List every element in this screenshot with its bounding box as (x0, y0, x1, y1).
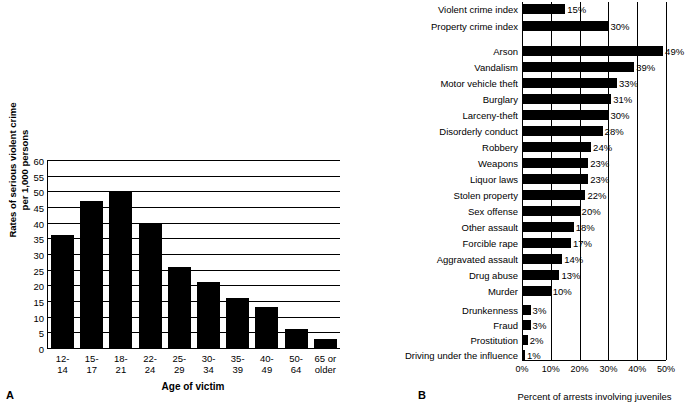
chart-b-bar-driving-under-the-influence (522, 350, 525, 360)
chart-b-label-fraud: Fraud (493, 320, 518, 331)
chart-a-xtick-65-or-older: 65 orolder (308, 353, 342, 375)
chart-b-value-vandalism: 39% (636, 62, 655, 73)
chart-b-xtick-0: 0% (515, 364, 528, 374)
chart-b-value-stolen-property: 22% (587, 190, 606, 201)
chart-b-label-prostitution: Prostitution (470, 335, 518, 346)
chart-a-ytick-20: 20 (33, 281, 44, 292)
chart-b-value-property-crime-index: 30% (610, 21, 629, 32)
chart-b-label-sex-offense: Sex offense (468, 206, 518, 217)
chart-b-bar-disorderly-conduct (522, 126, 603, 136)
chart-a-bar-35-39: 35-39 (226, 298, 249, 348)
chart-a-x-axis-label: Age of victim (47, 381, 339, 392)
chart-a-gridline-60: 60 (48, 160, 340, 161)
chart-b-xtick-30: 30% (599, 364, 617, 374)
chart-a-bar-12-14: 12-14 (51, 235, 74, 348)
chart-b-value-burglary: 31% (613, 94, 632, 105)
chart-b-label-murder: Murder (488, 286, 518, 297)
chart-b-bar-violent-crime-index (522, 4, 565, 14)
chart-b-label-forcible-rape: Forcible rape (463, 238, 518, 249)
chart-b-xtick-10: 10% (542, 364, 560, 374)
chart-a-gridline-0: 0 (48, 348, 340, 349)
chart-b-value-prostitution: 2% (530, 335, 544, 346)
chart-b-label-aggravated-assault: Aggravated assault (437, 254, 518, 265)
panel-a-label: A (6, 389, 14, 401)
chart-b-label-robbery: Robbery (482, 142, 518, 153)
chart-a-bar-50-64: 50-64 (285, 329, 308, 348)
chart-b-xtick-50: 50% (657, 364, 675, 374)
chart-b-value-drug-abuse: 13% (561, 270, 580, 281)
chart-b-label-stolen-property: Stolen property (454, 190, 518, 201)
chart-a-bar-25-29: 25-29 (168, 267, 191, 349)
chart-b-bar-drug-abuse (522, 270, 559, 280)
chart-a-ytick-5: 5 (39, 328, 44, 339)
chart-b-label-weapons: Weapons (478, 158, 518, 169)
chart-a-gridline-55: 55 (48, 176, 340, 177)
chart-b-label-motor-vehicle-theft: Motor vehicle theft (440, 78, 518, 89)
chart-b-label-other-assault: Other assault (462, 222, 519, 233)
chart-b-value-driving-under-the-influence: 1% (527, 350, 541, 361)
chart-a-ytick-35: 35 (33, 234, 44, 245)
chart-b-value-aggravated-assault: 14% (564, 254, 583, 265)
chart-b-bar-sex-offense (522, 206, 580, 216)
chart-b-value-fraud: 3% (533, 320, 547, 331)
chart-b-bar-arson (522, 46, 663, 56)
chart-b-bar-property-crime-index (522, 21, 608, 31)
chart-b-value-violent-crime-index: 15% (567, 4, 586, 15)
chart-b-plot-area: Violent crime index 15% Property crime i… (522, 2, 666, 360)
chart-b-label-vandalism: Vandalism (474, 62, 518, 73)
panel-b-label: B (418, 389, 426, 401)
chart-b-value-other-assault: 18% (576, 222, 595, 233)
chart-b-value-robbery: 24% (593, 142, 612, 153)
chart-a-ytick-60: 60 (33, 156, 44, 167)
chart-b-value-weapons: 23% (590, 158, 609, 169)
chart-b-xtick-40: 40% (628, 364, 646, 374)
chart-b-bar-weapons (522, 158, 588, 168)
chart-b-label-larceny-theft: Larceny-theft (463, 110, 518, 121)
chart-b-label-driving-under-the-influence: Driving under the influence (405, 350, 518, 361)
chart-b-bar-motor-vehicle-theft (522, 78, 617, 88)
chart-b-bar-stolen-property (522, 190, 585, 200)
chart-a-bar-18-21: 18-21 (109, 191, 132, 348)
chart-b-bar-other-assault (522, 222, 574, 232)
chart-a-ytick-50: 50 (33, 187, 44, 198)
chart-b-label-violent-crime-index: Violent crime index (438, 4, 518, 15)
chart-b-value-drunkenness: 3% (533, 305, 547, 316)
chart-a-plot-area: 0 5 10 15 20 25 30 35 40 45 50 55 60 12-… (47, 160, 340, 349)
chart-a-ytick-10: 10 (33, 312, 44, 323)
chart-a-y-axis-label-line2: per 1,000 persons (19, 75, 31, 265)
chart-b-value-forcible-rape: 17% (573, 238, 592, 249)
chart-b-value-larceny-theft: 30% (610, 110, 629, 121)
chart-a-gridline-50: 50 (48, 191, 340, 192)
chart-a-bar-15-17: 15-17 (80, 201, 103, 348)
chart-b-value-disorderly-conduct: 28% (605, 126, 624, 137)
chart-b-bar-burglary (522, 94, 611, 104)
chart-b-label-drug-abuse: Drug abuse (469, 270, 518, 281)
chart-b-bar-fraud (522, 320, 531, 330)
chart-a-ytick-0: 0 (39, 344, 44, 355)
chart-a-bar-30-34: 30-34 (197, 282, 220, 348)
chart-a-bar-40-49: 40-49 (255, 307, 278, 348)
chart-panel-a: Rates of serious violent crime per 1,000… (0, 0, 400, 415)
chart-a-bar-22-24: 22-24 (139, 223, 162, 348)
chart-b-value-murder: 10% (553, 286, 572, 297)
chart-b-label-disorderly-conduct: Disorderly conduct (439, 126, 518, 137)
chart-a-ytick-15: 15 (33, 297, 44, 308)
chart-b-label-liquor-laws: Liquor laws (470, 174, 518, 185)
chart-a-ytick-40: 40 (33, 218, 44, 229)
chart-b-label-property-crime-index: Property crime index (431, 21, 518, 32)
chart-panel-b: Violent crime index 15% Property crime i… (400, 0, 689, 415)
chart-b-label-arson: Arson (493, 46, 518, 57)
chart-b-xtick-20: 20% (571, 364, 589, 374)
chart-b-bar-drunkenness (522, 305, 531, 315)
chart-b-label-burglary: Burglary (483, 94, 518, 105)
chart-b-bar-forcible-rape (522, 238, 571, 248)
chart-b-bar-aggravated-assault (522, 254, 562, 264)
chart-b-bar-prostitution (522, 335, 528, 345)
chart-b-bar-liquor-laws (522, 174, 588, 184)
chart-b-bar-robbery (522, 142, 591, 152)
chart-b-x-axis-label: Percent of arrests involving juveniles (500, 391, 689, 402)
chart-b-x-axis (522, 360, 666, 361)
chart-b-bar-vandalism (522, 62, 634, 72)
chart-a-y-axis-label: Rates of serious violent crime per 1,000… (7, 75, 31, 265)
chart-a-bar-65-or-older: 65 orolder (314, 339, 337, 348)
